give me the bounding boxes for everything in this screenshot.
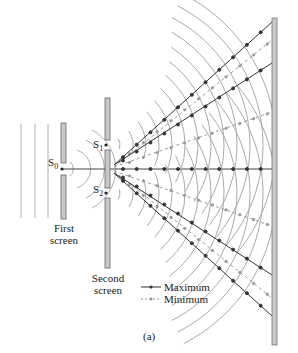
s2-label: S2 xyxy=(93,183,103,197)
first-screen-label: First screen xyxy=(44,222,84,246)
first-screen xyxy=(61,123,66,219)
legend-minimum-label: Minimum xyxy=(164,293,208,305)
interference-diagram xyxy=(0,0,298,353)
legend-minimum-symbol xyxy=(141,298,161,301)
second-screen-label: Second screen xyxy=(85,272,131,296)
s1-label: S1 xyxy=(93,138,103,152)
legend-maximum-symbol xyxy=(141,285,161,288)
second-screen xyxy=(105,98,110,268)
s0-point xyxy=(60,167,63,170)
figure-caption: (a) xyxy=(143,330,155,342)
viewing-screen xyxy=(272,18,277,345)
s0-label: S0 xyxy=(48,156,58,170)
plane-waves xyxy=(21,124,48,218)
s1-point xyxy=(104,143,107,146)
legend-maximum-label: Maximum xyxy=(164,281,210,293)
s2-point xyxy=(104,191,107,194)
